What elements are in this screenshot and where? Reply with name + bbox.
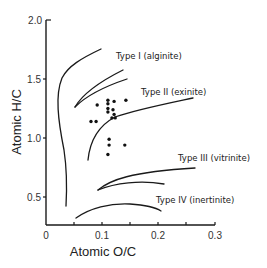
x-tick-label: 0.3 [208,230,222,241]
x-axis-title: Atomic O/C [70,244,136,259]
boundary-curves [58,49,195,218]
type-iii-upper-limb-curve [98,168,195,190]
type-i-label: Type I (alginite) [115,51,182,61]
data-point [123,143,126,146]
type-iv-label: Type IV (inertinite) [155,195,234,205]
data-point [106,153,109,156]
van-krevelen-chart: 2.0 1.5 1.0 0.5 0 0.1 0.2 0.3 Atomic O/C… [0,0,267,268]
data-point [107,143,110,146]
data-point [112,113,115,116]
data-point [107,138,110,141]
y-tick-labels: 2.0 1.5 1.0 0.5 [27,15,42,203]
y-tick-label: 1.5 [27,74,41,85]
type-i-envelope-curve [58,49,101,206]
x-tick-label: 0.1 [95,230,109,241]
data-point [106,107,109,110]
data-point [111,108,114,111]
sample-points [89,99,127,157]
y-tick-label: 1.0 [27,133,41,144]
type-iii-label: Type III (vitrinite) [177,153,250,163]
y-tick-label: 2.0 [28,15,42,26]
type-ii-label: Type II (exinite) [140,87,206,97]
data-point [112,100,115,103]
data-point [110,116,113,119]
type-iv-boundary-curve [76,204,161,218]
data-point [94,120,97,123]
x-tick-labels: 0 0.1 0.2 0.3 [43,230,222,241]
data-point [89,120,92,123]
y-axis-title: Atomic H/C [9,89,24,155]
x-tick-label: 0 [43,230,49,241]
data-point [106,102,109,105]
data-point [124,99,127,102]
y-tick-label: 0.5 [27,192,41,203]
type-ii-iii-boundary-curve [88,98,193,160]
data-point [96,103,99,106]
x-tick-label: 0.2 [151,230,165,241]
data-point [106,99,109,102]
data-point [114,116,117,119]
data-point [106,110,109,113]
